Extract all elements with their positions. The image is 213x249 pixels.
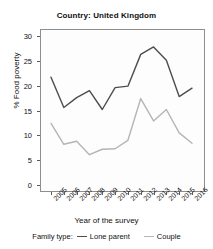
x-tick-mark <box>89 192 90 195</box>
series-line-lone-parent <box>51 47 192 110</box>
chart-title: Country: United Kingdom <box>0 11 213 20</box>
series-line-couple <box>51 99 192 155</box>
y-tick-label: 10 <box>6 131 32 140</box>
y-tick-label: 15 <box>6 106 32 115</box>
y-tick-mark <box>37 61 40 62</box>
y-tick-mark <box>37 135 40 136</box>
y-tick-mark <box>37 111 40 112</box>
y-tick-mark <box>37 185 40 186</box>
x-tick-mark <box>51 192 52 195</box>
y-tick-label: 30 <box>6 32 32 41</box>
x-tick-mark <box>77 192 78 195</box>
y-tick-label: 5 <box>6 156 32 165</box>
x-tick-mark <box>128 192 129 195</box>
legend-label-lone-parent: Lone parent <box>90 232 130 241</box>
legend-title: Family type: <box>32 232 72 241</box>
x-tick-mark <box>179 192 180 195</box>
x-tick-mark <box>154 192 155 195</box>
legend-swatch-lone-parent <box>77 236 87 238</box>
plot-svg <box>41 30 204 191</box>
legend-entry-couple: Couple <box>144 232 181 241</box>
y-tick-label: 0 <box>6 181 32 190</box>
chart-legend: Family type: Lone parent Couple <box>0 232 213 241</box>
x-axis-label: Year of the survey <box>0 216 213 225</box>
y-tick-mark <box>37 36 40 37</box>
x-tick-mark <box>64 192 65 195</box>
y-tick-mark <box>37 160 40 161</box>
x-tick-mark <box>141 192 142 195</box>
x-tick-mark <box>192 192 193 195</box>
legend-label-couple: Couple <box>157 232 181 241</box>
plot-area <box>40 29 205 192</box>
y-tick-mark <box>37 86 40 87</box>
x-tick-mark <box>115 192 116 195</box>
legend-entry-lone-parent: Lone parent <box>77 232 130 241</box>
y-tick-label: 25 <box>6 56 32 65</box>
x-tick-mark <box>166 192 167 195</box>
y-tick-label: 20 <box>6 81 32 90</box>
legend-swatch-couple <box>144 236 154 238</box>
chart-figure: Country: United Kingdom % Food poverty Y… <box>0 0 213 249</box>
x-tick-mark <box>102 192 103 195</box>
